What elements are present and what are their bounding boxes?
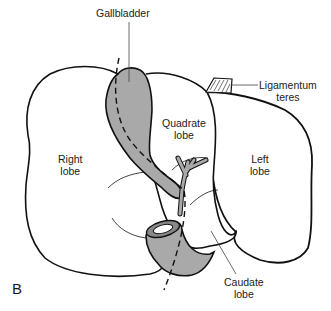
panel-letter: B — [12, 280, 22, 297]
label-caudate-lobe: Caudate lobe — [224, 276, 264, 300]
label-quadrate-lobe-line2: lobe — [162, 129, 206, 141]
label-gallbladder-text: Gallbladder — [96, 7, 150, 19]
liver-diagram: Gallbladder Ligamentum teres Quadrate lo… — [0, 0, 331, 311]
label-quadrate-lobe: Quadrate lobe — [162, 117, 206, 141]
label-left-lobe: Left lobe — [250, 153, 270, 177]
label-right-lobe-line2: lobe — [58, 165, 83, 177]
label-left-lobe-line2: lobe — [250, 165, 270, 177]
label-quadrate-lobe-line1: Quadrate — [162, 117, 206, 129]
label-right-lobe: Right lobe — [58, 153, 83, 177]
label-ligamentum-teres-line2: teres — [259, 91, 317, 103]
label-left-lobe-line1: Left — [250, 153, 270, 165]
liver-illustration — [0, 0, 331, 311]
label-ligamentum-teres: Ligamentum teres — [259, 79, 317, 103]
label-right-lobe-line1: Right — [58, 153, 83, 165]
label-ligamentum-teres-line1: Ligamentum — [259, 79, 317, 91]
label-caudate-lobe-line2: lobe — [224, 288, 264, 300]
label-caudate-lobe-line1: Caudate — [224, 276, 264, 288]
label-gallbladder: Gallbladder — [96, 7, 150, 19]
